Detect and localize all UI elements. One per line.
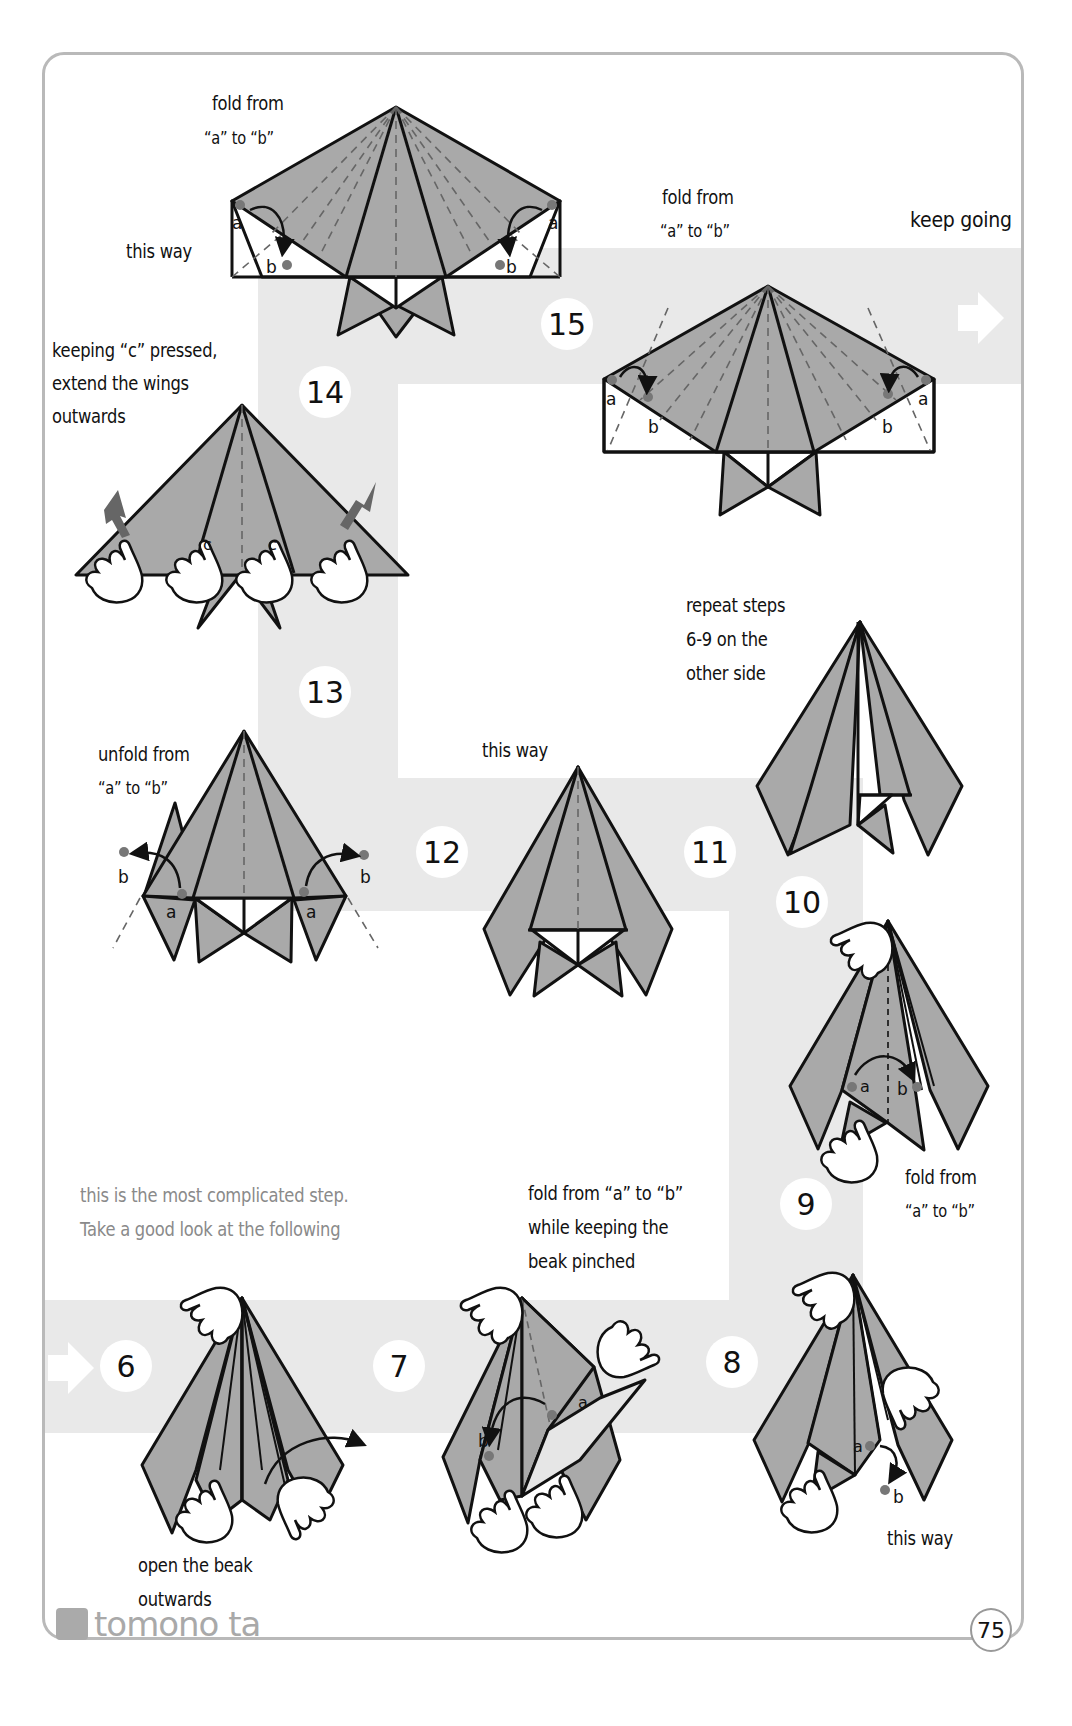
point-label-b: b: [897, 1072, 908, 1106]
note-take-a-good-look: Take a good look at the following: [80, 1212, 340, 1246]
point-label-a: a: [578, 1386, 588, 1420]
diagram-step-11: [757, 622, 962, 855]
point-label-a: a: [606, 382, 616, 416]
note-complicated-step: this is the most complicated step.: [80, 1178, 348, 1212]
point-label-a: a: [860, 1070, 870, 1104]
instruction-while-keeping: while keeping the: [528, 1210, 668, 1244]
point-label-b: b: [478, 1424, 489, 1458]
instruction-fold-from: fold from: [662, 180, 734, 214]
step-number-14: 14: [299, 366, 351, 418]
instruction-fold-from: fold from: [905, 1160, 977, 1194]
instruction-open-the-beak: open the beak: [138, 1548, 253, 1582]
point-label-b: b: [882, 410, 893, 444]
step-number-7: 7: [373, 1340, 425, 1392]
diagram-step-15: [604, 286, 934, 515]
diagram-step-12: [484, 767, 672, 996]
brand-logo: tomono ta: [56, 1604, 260, 1644]
point-label-c: c: [268, 528, 277, 562]
point-label-a: a: [306, 895, 316, 929]
instruction-fold-from-a-to-b: fold from “a” to “b”: [528, 1176, 683, 1210]
instruction-extend-wings: extend the wings: [52, 366, 189, 400]
keep-going-label: keep going: [910, 203, 1012, 237]
step-number-11: 11: [684, 826, 736, 878]
instruction-repeat-steps: repeat steps: [686, 588, 785, 622]
point-label-a: a: [548, 206, 558, 240]
instruction-a-to-b: “a” to “b”: [98, 771, 168, 805]
brand-mark-icon: [56, 1608, 88, 1640]
point-label-a: a: [232, 206, 242, 240]
step-number-6: 6: [100, 1340, 152, 1392]
instruction-keeping-c-pressed: keeping “c” pressed,: [52, 333, 217, 367]
instruction-this-way: this way: [887, 1521, 953, 1555]
instruction-beak-pinched: beak pinched: [528, 1244, 635, 1278]
instruction-this-way: this way: [482, 733, 548, 767]
point-label-b: b: [266, 250, 277, 284]
instruction-other-side: other side: [686, 656, 766, 690]
instruction-a-to-b: “a” to “b”: [660, 214, 730, 248]
instruction-6-9-on-the: 6-9 on the: [686, 622, 768, 656]
step-number-10: 10: [776, 876, 828, 928]
step-number-13: 13: [299, 666, 351, 718]
step-number-9: 9: [780, 1178, 832, 1230]
step-number-8: 8: [706, 1336, 758, 1388]
instruction-a-to-b: “a” to “b”: [204, 121, 274, 155]
point-label-b: b: [360, 860, 371, 894]
point-label-b: b: [118, 860, 129, 894]
point-label-a: a: [918, 382, 928, 416]
point-label-b: b: [648, 410, 659, 444]
instruction-a-to-b: “a” to “b”: [905, 1194, 975, 1228]
point-label-b: b: [893, 1480, 904, 1514]
brand-name: tomono ta: [94, 1604, 260, 1644]
point-label-c: c: [203, 528, 212, 562]
page-number: 75: [970, 1608, 1012, 1652]
instruction-this-way: this way: [126, 234, 192, 268]
instruction-fold-from: fold from: [212, 86, 284, 120]
diagram-step-15-top: [232, 107, 560, 337]
point-label-a: a: [166, 895, 176, 929]
step-number-12: 12: [416, 826, 468, 878]
point-label-a: a: [853, 1430, 863, 1464]
instruction-outwards: outwards: [52, 399, 125, 433]
point-label-b: b: [506, 250, 517, 284]
step-number-15: 15: [541, 298, 593, 350]
instruction-unfold-from: unfold from: [98, 737, 190, 771]
